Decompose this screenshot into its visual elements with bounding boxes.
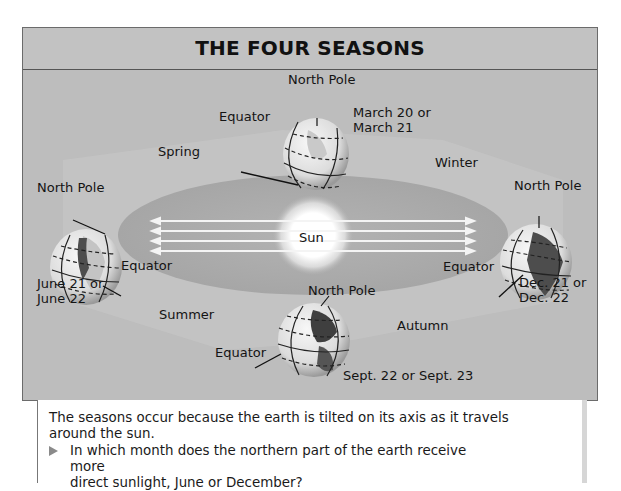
date-label-september: Sept. 22 or Sept. 23 [343, 368, 473, 383]
equator-label-december: Equator [443, 259, 494, 274]
north-pole-label-september: North Pole [308, 283, 375, 298]
question-line-1: In which month does the northern part of… [70, 443, 490, 475]
equator-label-june: Equator [121, 258, 172, 273]
caption-line-2: around the sun. [49, 426, 509, 442]
triangle-bullet-icon [49, 446, 58, 456]
caption-line-1: The seasons occur because the earth is t… [49, 410, 509, 426]
seasons-diagram: North Pole Equator March 20 or March 21 … [23, 70, 597, 400]
diagram-title: THE FOUR SEASONS [195, 36, 425, 60]
caption-text: The seasons occur because the earth is t… [49, 410, 509, 442]
date-label-june-1: June 21 or [37, 276, 103, 291]
date-label-december-1: Dec. 21 or [519, 275, 586, 290]
sun-label: Sun [299, 230, 324, 245]
date-label-march-2: March 21 [353, 120, 413, 135]
question-text: In which month does the northern part of… [70, 443, 490, 491]
season-label-summer: Summer [159, 307, 214, 322]
north-pole-label-march: North Pole [288, 72, 355, 87]
date-label-march-1: March 20 or [353, 105, 431, 120]
question-line-2: direct sunlight, June or December? [70, 475, 490, 491]
equator-label-march: Equator [219, 109, 270, 124]
diagram-frame: THE FOUR SEASONS [22, 27, 598, 401]
north-pole-label-june: North Pole [37, 180, 104, 195]
season-label-spring: Spring [158, 144, 200, 159]
season-label-autumn: Autumn [397, 318, 448, 333]
caption-box: The seasons occur because the earth is t… [37, 400, 582, 483]
date-label-june-2: June 22 [37, 291, 86, 306]
caption-edge [582, 400, 587, 483]
date-label-december-2: Dec. 22 [519, 290, 569, 305]
north-pole-label-december: North Pole [514, 178, 581, 193]
equator-label-september: Equator [215, 345, 266, 360]
season-label-winter: Winter [435, 155, 478, 170]
title-bar: THE FOUR SEASONS [23, 28, 597, 70]
